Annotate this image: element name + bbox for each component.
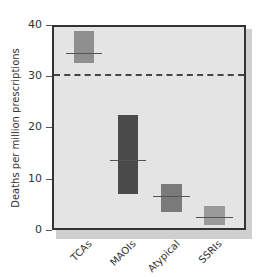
y-tick-40 (46, 25, 52, 26)
y-tick-label-10: 10 (22, 172, 42, 185)
reference-line-30 (54, 74, 244, 76)
box-chart: 40 30 20 10 0 Deaths per million prescri… (0, 0, 266, 277)
y-axis-label: Deaths per million prescriptions (10, 48, 21, 208)
y-tick-10 (46, 179, 52, 180)
box-tcas (74, 31, 94, 63)
box-maois (118, 115, 138, 194)
box-ssris (204, 206, 225, 225)
median-atypical (153, 196, 190, 197)
x-label-ssris: SSRIs (192, 238, 224, 270)
x-label-maois: MAOIs (102, 238, 138, 274)
y-tick-label-0: 0 (22, 223, 42, 236)
y-tick-20 (46, 127, 52, 128)
median-maois (110, 160, 146, 161)
x-label-atypical: Atypical (140, 238, 182, 277)
x-label-tcas: TCAs (62, 238, 94, 270)
y-tick-label-40: 40 (22, 18, 42, 31)
median-ssris (196, 217, 233, 218)
median-tcas (66, 53, 102, 54)
y-tick-label-30: 30 (22, 69, 42, 82)
y-tick-30 (46, 76, 52, 77)
y-tick-0 (46, 230, 52, 231)
box-atypical (161, 184, 182, 212)
y-tick-label-20: 20 (22, 120, 42, 133)
